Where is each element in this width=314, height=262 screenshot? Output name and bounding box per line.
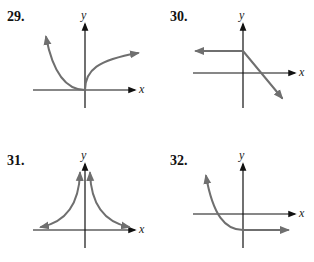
y-axis-label: y <box>80 148 87 162</box>
graph-number: 29. <box>7 9 25 24</box>
y-axis-label: y <box>238 8 245 22</box>
y-axis-label: y <box>238 148 245 162</box>
curve-decreasing-ray <box>243 51 282 98</box>
curve-right-branch <box>85 53 138 90</box>
graph-29: 29. y x <box>7 8 145 108</box>
graph-number: 30. <box>170 9 188 24</box>
curve-right-branch <box>90 173 129 227</box>
x-axis-label: x <box>138 222 145 236</box>
x-axis-label: x <box>138 82 145 96</box>
graph-number: 32. <box>170 153 188 168</box>
x-axis-label: x <box>298 65 305 79</box>
x-axis-label: x <box>298 206 305 220</box>
graph-30: 30. y x <box>170 8 305 108</box>
graph-31: 31. y x <box>7 148 145 248</box>
curve-left-branch <box>41 173 80 227</box>
graphs-figure: 29. y x 30. y x 31. y x 32. y x <box>0 0 314 262</box>
curve <box>206 176 288 230</box>
y-axis-label: y <box>80 8 87 22</box>
graph-32: 32. y x <box>170 148 305 248</box>
curve-left-branch <box>46 37 85 90</box>
graph-number: 31. <box>7 153 25 168</box>
